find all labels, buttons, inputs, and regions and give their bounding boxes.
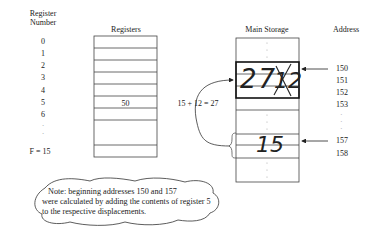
address-151: 151: [336, 77, 348, 85]
storage-value-27: 27: [240, 64, 277, 94]
storage-value-crossed-12: 12: [274, 68, 302, 94]
address-ellipsis-3: ·: [340, 125, 343, 133]
calculation-arrow: [195, 80, 233, 146]
register-5-value: 50: [94, 99, 157, 108]
address-150: 150: [336, 65, 348, 73]
address-153: 153: [336, 101, 348, 109]
storage-value-15: 15: [256, 132, 284, 158]
register-table: [94, 36, 157, 157]
brace-icon: [229, 133, 236, 158]
note-text: Note: beginning addresses 150 and 157 we…: [48, 187, 211, 217]
main-storage-table: [236, 38, 299, 182]
address-157: 157: [336, 137, 348, 145]
note-line-1: Note: beginning addresses 150 and 157: [48, 187, 211, 197]
address-152: 152: [336, 89, 348, 97]
calculation-label: 15 + 12 = 27: [168, 99, 228, 108]
address-158: 158: [336, 150, 348, 158]
note-line-3: to the respective displacements.: [42, 207, 211, 217]
note-line-2: were calculated by adding the contents o…: [42, 197, 211, 207]
